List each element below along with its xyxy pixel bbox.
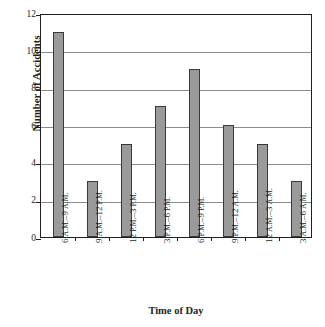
y-axis-tick-label: 4: [18, 159, 36, 168]
x-axis-tick: [211, 237, 212, 241]
y-axis-tick: [36, 90, 41, 91]
y-axis-tick: [36, 239, 41, 240]
x-axis-tick-label: 9 A.M.–12 P.M.: [95, 155, 104, 243]
x-axis-tick: [75, 237, 76, 241]
x-axis-title: Time of Day: [40, 305, 312, 316]
y-axis-tick-label: 8: [18, 84, 36, 93]
y-axis-tick: [36, 164, 41, 165]
x-axis-tick: [245, 237, 246, 241]
y-axis-tick: [36, 127, 41, 128]
y-axis-tick-label: 12: [18, 10, 36, 19]
x-axis-tick-label: 12 A.M.–3 A.M.: [265, 155, 274, 243]
y-axis-tick-label: 2: [18, 196, 36, 205]
x-axis-tick-label: 12 P.M.–3 P.M.: [129, 155, 138, 243]
x-axis-tick: [143, 237, 144, 241]
x-axis-tick-label: 6 A.M.–9 A.M.: [61, 155, 70, 243]
y-axis-tick: [36, 15, 41, 16]
y-axis-tick: [36, 52, 41, 53]
x-axis-tick-label: 3 P.M.–6 P.M.: [163, 155, 172, 243]
y-axis-tick-label: 0: [18, 234, 36, 243]
x-axis-tick: [177, 237, 178, 241]
bar-chart: Number of Accidents 024681012 6 A.M.–9 A…: [0, 0, 325, 327]
y-axis-tick: [36, 202, 41, 203]
x-axis-tick-label: 9 P.M.–12 A.M.: [231, 155, 240, 243]
x-axis-tick: [109, 237, 110, 241]
y-axis-tick-label: 10: [18, 47, 36, 56]
x-axis-tick-label: 3 A.M.–6 A.M.: [299, 155, 308, 243]
x-axis-tick: [279, 237, 280, 241]
x-axis-tick-label: 6 P.M.–9 P.M.: [197, 155, 206, 243]
y-axis-tick-label: 6: [18, 122, 36, 131]
